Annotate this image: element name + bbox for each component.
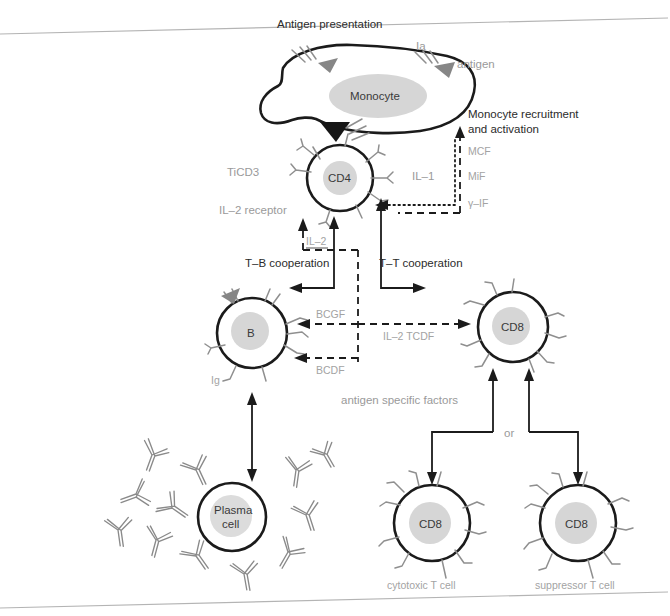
- cytotoxic-cd8-label: CD8: [419, 518, 442, 530]
- arrowhead-tt-right: [413, 283, 426, 293]
- antibody-icon: [269, 536, 307, 575]
- il2-receptor-label: IL–2 receptor: [219, 204, 287, 216]
- arrowhead-tb: [289, 283, 302, 293]
- antibody-icon: [282, 456, 313, 488]
- antibody-icon: [104, 516, 135, 548]
- diagram-canvas: Antigen presentation Monocyte Ia antigen: [0, 0, 670, 616]
- il2-tcdf-label: IL–2 TCDF: [383, 330, 434, 342]
- arrowhead-bcgf: [297, 319, 310, 329]
- branch-to-cytotoxic: [432, 432, 493, 474]
- cell-cd4: CD4: [290, 134, 393, 228]
- bcdf-label: BCDF: [316, 364, 345, 376]
- arrowhead-to-suppressor: [573, 472, 583, 485]
- suppressor-t-cell-caption: suppressor T cell: [535, 579, 615, 591]
- antibody-icon: [140, 525, 174, 560]
- arrowhead-to-monocyte: [455, 126, 465, 138]
- cell-b: B: [205, 288, 308, 381]
- arrow-il2-tcdf: [358, 319, 471, 329]
- arrow-b-to-plasma: [247, 392, 257, 482]
- monocyte-label: Monocyte: [350, 90, 400, 102]
- immune-interaction-diagram: Antigen presentation Monocyte Ia antigen: [0, 0, 670, 616]
- cd4-label: CD4: [328, 172, 352, 184]
- il2-label: IL–2: [306, 235, 327, 247]
- branch-to-suppressor: [529, 432, 578, 474]
- gamma-if-label: γ–IF: [468, 197, 488, 209]
- il2-autocrine-loop: [298, 216, 358, 285]
- mcf-label: MCF: [468, 145, 491, 157]
- antibody-icon: [116, 479, 152, 514]
- arrowhead-plasma-up: [247, 392, 257, 405]
- plasma-cell-label-line2: cell: [222, 518, 239, 530]
- b-cell-label: B: [247, 327, 255, 339]
- ticd3-label: TiCD3: [227, 166, 259, 178]
- figure-title: Antigen presentation: [277, 18, 383, 30]
- arrowhead-bcdf: [294, 353, 307, 363]
- arrowhead-il2-center: [329, 216, 339, 229]
- cell-suppressor-t: CD8: [524, 472, 633, 578]
- cd8-top-label: CD8: [501, 321, 524, 333]
- cytotoxic-t-cell-caption: cytotoxic T cell: [387, 579, 455, 591]
- ig-label: Ig: [211, 374, 220, 386]
- antigen-label: antigen: [457, 58, 495, 70]
- cell-cytotoxic-t: CD8: [379, 471, 486, 578]
- arrowhead-branch-left-up: [488, 368, 498, 381]
- antigen-specific-factors-label: antigen specific factors: [341, 394, 458, 406]
- plasma-nucleus: [210, 495, 252, 537]
- antibody-icon: [310, 439, 343, 473]
- ia-label: Ia: [416, 40, 426, 52]
- arrowhead-plasma-down: [247, 469, 257, 482]
- antigen-triangle-presented: [320, 122, 350, 142]
- mif-label: MiF: [468, 170, 486, 182]
- antibody-icon: [180, 453, 217, 491]
- tt-cooperation-label: T–T cooperation: [379, 257, 463, 269]
- antibody-icon: [135, 438, 171, 475]
- cell-plasma: Plasma cell: [198, 483, 266, 551]
- arrowhead-il2-left: [298, 218, 308, 231]
- plasma-cell-label-line1: Plasma: [214, 504, 253, 516]
- antibody-icon: [291, 499, 326, 535]
- monocyte-recruitment-line2: and activation: [468, 123, 539, 135]
- or-label: or: [504, 427, 514, 439]
- cell-cd8-top: CD8: [461, 279, 566, 372]
- suppressor-cd8-label: CD8: [565, 518, 588, 530]
- bcgf-label: BCGF: [316, 308, 345, 320]
- arrow-bcgf: [297, 319, 358, 329]
- antibody-icon: [230, 560, 262, 593]
- tb-cooperation-label: T–B cooperation: [245, 257, 329, 269]
- antibody-icon: [155, 489, 194, 528]
- page-rule-bottom: [0, 592, 668, 608]
- il1-label: IL–1: [412, 170, 434, 182]
- arrowhead-to-cytotoxic: [427, 472, 437, 485]
- cell-monocyte: Monocyte Ia antigen: [260, 40, 494, 142]
- tb-path: [300, 250, 334, 288]
- monocyte-recruitment-line1: Monocyte recruitment: [468, 108, 579, 120]
- arrow-bcdf: [294, 353, 358, 363]
- arrowhead-il2-tcdf: [458, 319, 471, 329]
